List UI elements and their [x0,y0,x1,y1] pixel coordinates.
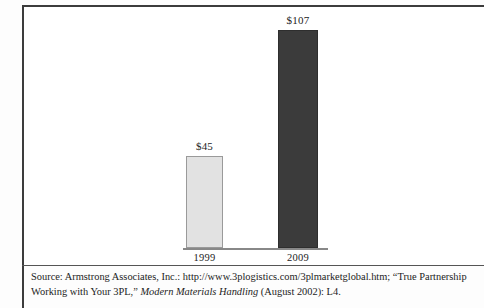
figure-caption-divider [22,265,484,266]
chart-baseline-axis [183,248,328,250]
source-line-2: Working with Your 3PL,” Modern Materials… [31,285,471,300]
figure-page: $107 $45 1999 2009 Source: Armstrong Ass… [0,0,484,308]
source-line-1: Source: Armstrong Associates, Inc.: http… [31,270,471,285]
source-line-2-suffix: (August 2002): L4. [258,286,341,297]
bar-2009 [278,30,318,248]
source-publication-title: Modern Materials Handling [140,286,258,297]
category-label-1999: 1999 [176,252,233,263]
bar-chart-plot-area: $107 $45 1999 2009 [24,7,484,265]
figure-source-note: Source: Armstrong Associates, Inc.: http… [31,270,471,299]
bar-value-label-1999: $45 [176,140,233,152]
bar-1999 [186,156,223,248]
bar-value-label-2009: $107 [268,14,328,26]
category-label-2009: 2009 [268,252,328,263]
source-line-2-prefix: Working with Your 3PL,” [31,286,140,297]
